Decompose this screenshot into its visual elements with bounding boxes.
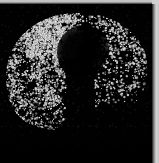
labelled-tissue-section: [0, 4, 152, 163]
page-margin-corner: [152, 0, 159, 4]
page-margin-top: [0, 0, 159, 4]
page-margin-right: [152, 0, 159, 163]
punctate-signal-layer: [0, 4, 152, 163]
screenshot-viewport: [0, 0, 159, 163]
microscopy-image-field: [0, 4, 152, 163]
